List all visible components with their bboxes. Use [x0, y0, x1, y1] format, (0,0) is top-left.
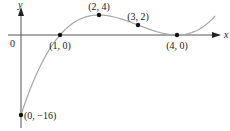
y-axis-label: y: [17, 0, 23, 10]
origin-label: 0: [10, 38, 15, 49]
data-point: [19, 113, 23, 117]
data-point: [136, 23, 140, 27]
labeled-points: (0, −16)(1, 0)(2, 4)(3, 2)(4, 0): [19, 1, 188, 122]
function-graph: x y 0 (0, −16)(1, 0)(2, 4)(3, 2)(4, 0): [0, 0, 230, 131]
point-label: (4, 0): [166, 40, 188, 52]
point-label: (2, 4): [88, 1, 110, 13]
x-axis-arrow-icon: [212, 32, 221, 38]
function-curve: [21, 15, 215, 115]
point-label: (1, 0): [49, 40, 71, 52]
data-point: [58, 33, 62, 37]
data-point: [175, 33, 179, 37]
data-point: [97, 13, 101, 17]
x-axis-label: x: [223, 29, 229, 40]
point-label: (3, 2): [127, 11, 149, 23]
point-label: (0, −16): [24, 110, 56, 122]
